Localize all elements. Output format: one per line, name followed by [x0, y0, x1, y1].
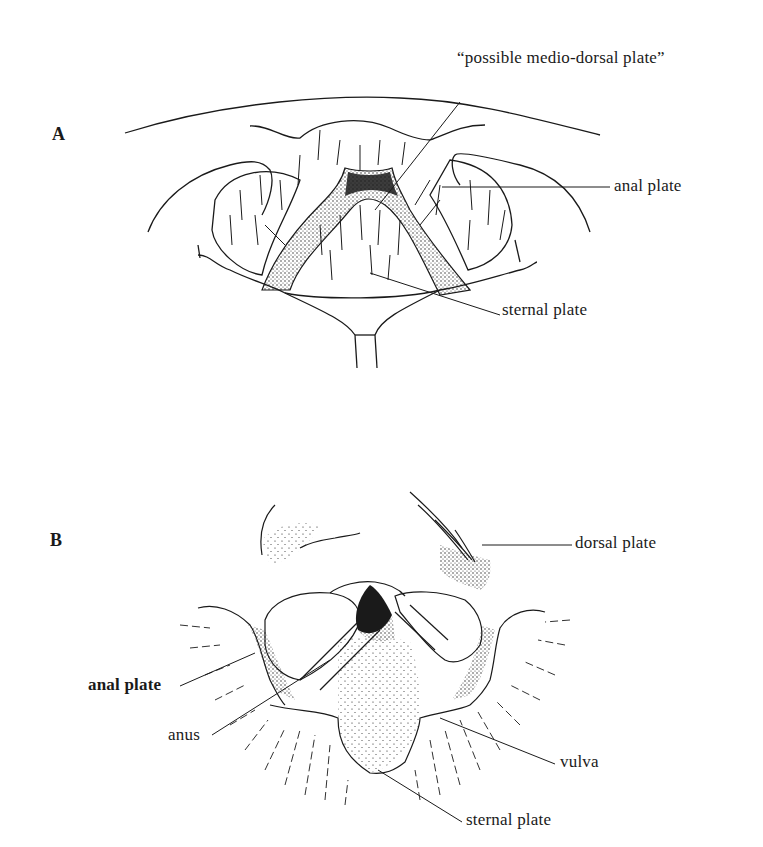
- label-a-sternal-plate: sternal plate: [502, 300, 587, 320]
- panel-b-letter: B: [50, 530, 62, 551]
- label-a-anal-plate: anal plate: [614, 176, 682, 196]
- label-b-sternal-plate: sternal plate: [466, 810, 551, 830]
- anatomical-drawing: [0, 0, 763, 847]
- label-dorsal-plate: dorsal plate: [575, 533, 656, 553]
- label-b-anal-plate: anal plate: [88, 675, 161, 695]
- panel-a-letter: A: [52, 124, 65, 145]
- panel-b-sternal-stipple: [338, 636, 420, 773]
- panel-a-setae: [230, 130, 505, 280]
- panel-a-drawing: [125, 97, 600, 368]
- label-anus: anus: [168, 725, 200, 745]
- label-possible-medio-dorsal-plate: “possible medio-dorsal plate”: [457, 48, 665, 68]
- label-vulva: vulva: [560, 752, 599, 772]
